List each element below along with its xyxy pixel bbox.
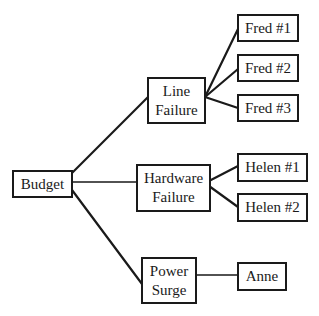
tree-diagram: Budget Line Failure Hardware Failure Pow… [0,0,319,316]
node-label: Fred #3 [245,99,291,118]
edge-budget-power-surge [72,190,142,284]
edge-budget-line-failure [72,97,148,173]
node-helen-1: Helen #1 [237,153,308,182]
node-helen-2: Helen #2 [237,193,308,222]
node-label: Fred #1 [245,19,291,38]
node-label: Anne [246,267,279,286]
node-anne: Anne [237,262,287,291]
node-label-line-1: Hardware [144,169,203,188]
edge-hardware-failure-helen-1 [209,166,238,181]
node-power-surge: Power Surge [141,257,197,304]
node-fred-2: Fred #2 [237,54,299,82]
edge-line-failure-fred-2 [205,69,238,97]
node-line-failure: Line Failure [147,77,206,124]
node-hardware-failure: Hardware Failure [136,164,211,212]
edge-hardware-failure-helen-2 [209,186,238,207]
node-label: Budget [21,175,64,194]
node-label-line-2: Surge [152,281,187,300]
node-label-line-2: Failure [152,188,195,207]
node-budget: Budget [12,170,73,198]
node-label: Helen #2 [245,198,300,217]
edge-line-failure-fred-3 [205,97,238,108]
edge-line-failure-fred-1 [205,29,238,97]
node-fred-3: Fred #3 [237,94,299,122]
node-label: Fred #2 [245,59,291,78]
node-fred-1: Fred #1 [237,14,299,42]
node-label: Helen #1 [245,158,300,177]
node-label-line-2: Failure [155,101,198,120]
node-label-line-1: Line [163,82,191,101]
node-label-line-1: Power [150,262,188,281]
